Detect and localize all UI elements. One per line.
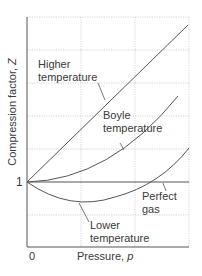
x-tick-0: 0 [29,250,35,262]
boyle-label-1: Boyle [103,109,131,121]
lower-label-1: Lower [90,219,120,231]
higher-label-1: Higher [38,58,70,70]
perfect-label-2: gas [142,203,160,215]
higher-label-2: temperature [38,71,97,83]
x-axis-label: Pressure, p [77,250,133,262]
boyle-label-2: temperature [103,122,162,134]
lower-leader [79,203,89,222]
higher-leader [98,83,105,100]
y-axis-label: Compression factor, Z [6,58,18,166]
perfect-label-1: Perfect [142,190,177,202]
lower-label-2: temperature [90,232,149,244]
y-tick-1: 1 [16,176,23,188]
